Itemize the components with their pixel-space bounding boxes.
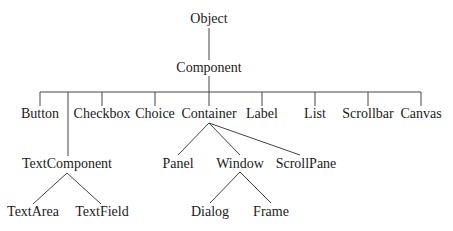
edge-container-window <box>209 123 240 155</box>
node-frame: Frame <box>253 204 289 220</box>
node-choice: Choice <box>135 106 175 122</box>
node-list: List <box>304 106 326 122</box>
node-textcomponent: TextComponent <box>22 156 112 172</box>
node-label: Label <box>246 106 278 122</box>
node-textarea: TextArea <box>7 204 59 220</box>
node-textfield: TextField <box>75 204 128 220</box>
node-scrollbar: Scrollbar <box>342 106 393 122</box>
node-checkbox: Checkbox <box>74 106 131 122</box>
node-scrollpane: ScrollPane <box>276 156 337 172</box>
node-panel: Panel <box>162 156 193 172</box>
class-hierarchy-diagram: Object Component Button Checkbox Choice … <box>0 0 453 231</box>
node-object: Object <box>190 11 227 27</box>
node-dialog: Dialog <box>191 204 229 220</box>
node-component: Component <box>176 60 241 76</box>
edge-container-panel <box>178 123 209 155</box>
edge-textcomponent-textfield <box>67 173 101 204</box>
edge-textcomponent-textarea <box>33 173 67 204</box>
node-button: Button <box>21 106 59 122</box>
edge-container-scrollpane <box>209 123 300 155</box>
node-canvas: Canvas <box>400 106 441 122</box>
edge-window-frame <box>240 172 271 203</box>
node-window: Window <box>216 156 264 172</box>
edge-window-dialog <box>210 172 240 203</box>
node-container: Container <box>181 106 236 122</box>
